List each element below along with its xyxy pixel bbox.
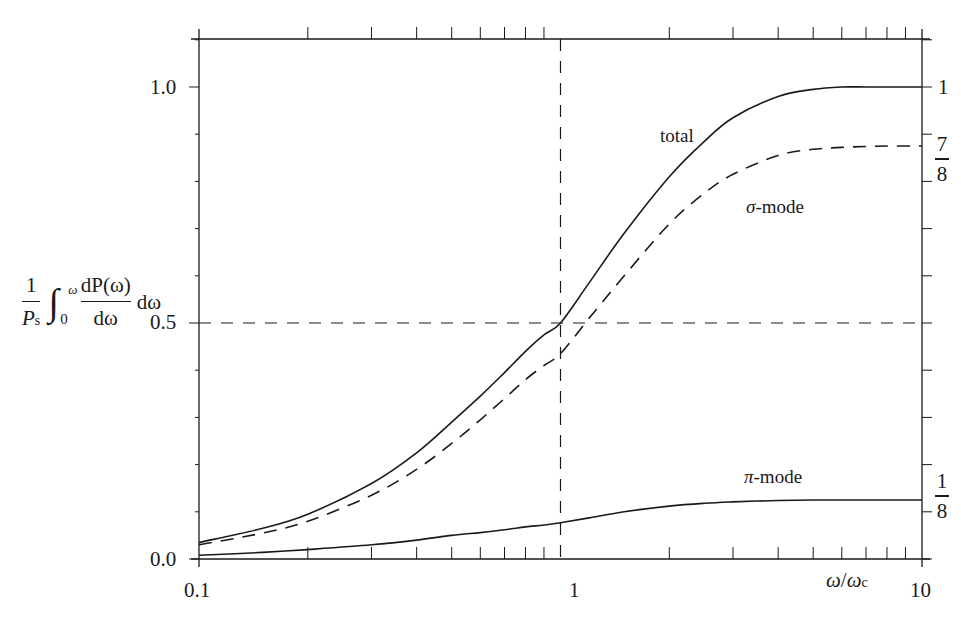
y-label-numerator: 1 — [26, 273, 37, 298]
right-1-8-denominator: 8 — [937, 501, 948, 522]
label-total: total — [660, 126, 694, 145]
fraction-bar — [22, 301, 40, 303]
y-axis-label: 1 Ps ∫ω0 dP(ω) dω dω — [18, 262, 161, 342]
sigma-suffix: -mode — [755, 196, 804, 217]
right-label-1: 1 — [938, 77, 949, 98]
integral-symbol: ∫ — [48, 281, 58, 323]
integral-sign: ∫ω0 — [48, 280, 58, 324]
x-label-sub-c: c — [862, 575, 868, 590]
x-tick-10: 10 — [910, 580, 931, 601]
label-pi-mode: π-mode — [744, 467, 802, 486]
x-label-omega: ω — [826, 568, 841, 592]
y-tick-0.5: 0.5 — [150, 312, 176, 333]
y-label-sub-s: s — [35, 313, 40, 328]
x-label-omega-c: ω — [847, 568, 862, 592]
x-tick-1: 1 — [569, 580, 580, 601]
y-tick-0.0: 0.0 — [150, 549, 176, 570]
sigma-symbol: σ — [746, 196, 755, 217]
integral-upper-limit: ω — [68, 282, 77, 298]
pi-symbol: π — [744, 466, 754, 487]
derivative-denominator: dω — [94, 306, 118, 331]
fraction-bar — [81, 301, 131, 303]
derivative-numerator: dP(ω) — [81, 273, 131, 298]
fraction-bar — [935, 158, 949, 160]
label-sigma-mode: σ-mode — [746, 197, 804, 216]
y-label-prefactor: 1 Ps — [22, 273, 40, 332]
integral-lower-limit: 0 — [60, 311, 68, 328]
y-label-P: P — [22, 306, 35, 330]
right-7-8-denominator: 8 — [937, 164, 948, 185]
x-tick-0.1: 0.1 — [184, 580, 210, 601]
y-label-derivative: dP(ω) dω — [81, 273, 131, 332]
right-1-8-numerator: 1 — [937, 471, 948, 492]
x-axis-label: ω/ωc — [826, 570, 868, 591]
y-label-denominator: Ps — [22, 306, 40, 331]
y-tick-1.0: 1.0 — [150, 77, 176, 98]
pi-suffix: -mode — [754, 466, 803, 487]
right-7-8-numerator: 7 — [937, 134, 948, 155]
right-label-7-8: 7 8 — [935, 134, 949, 185]
right-label-1-8: 1 8 — [935, 471, 949, 522]
fraction-bar — [935, 495, 949, 497]
